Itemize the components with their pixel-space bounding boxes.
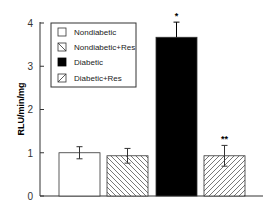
bar-chart: RLU/min/mg 0 1 2 3 4 *** Nondiabetic Non… (0, 0, 280, 207)
y-tick-label-0: 0 (27, 191, 33, 202)
significance-marker: * (175, 11, 179, 21)
legend-label-diabetic: Diabetic (74, 58, 103, 67)
legend-swatch-diabetic (58, 58, 66, 66)
legend-label-nondiabetic: Nondiabetic (74, 28, 116, 37)
y-tick-label-3: 3 (27, 61, 33, 72)
y-axis-label: RLU/min/mg (16, 83, 26, 136)
bar-diabetic (156, 37, 197, 196)
legend-swatch-nondiabetic (58, 28, 66, 36)
y-tick-label-2: 2 (27, 104, 33, 115)
significance-marker: ** (221, 134, 229, 144)
y-tick-label-4: 4 (27, 18, 33, 29)
legend-label-diabetic-res: Diabetic+Res (74, 74, 122, 83)
error-bar (174, 22, 180, 37)
legend: Nondiabetic Nondiabetic+Res Diabetic Dia… (51, 23, 136, 87)
legend-label-nondiabetic-res: Nondiabetic+Res (74, 43, 135, 52)
y-tick-label-1: 1 (27, 148, 33, 159)
y-ticks (40, 23, 44, 196)
